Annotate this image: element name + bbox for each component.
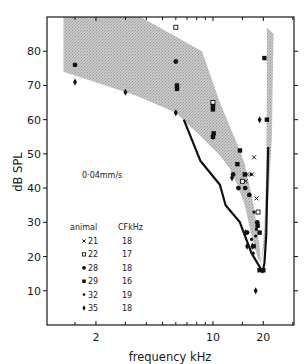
filled-square-marker (243, 172, 247, 176)
filled-square-marker (265, 117, 269, 121)
filled-square-marker (238, 148, 242, 152)
legend-cf-value: 16 (122, 277, 132, 286)
x-tick-label: 10 (206, 331, 220, 344)
x-tick-label: 20 (256, 331, 270, 344)
filled-square-marker (211, 104, 215, 108)
legend-entry: 2818 (82, 264, 132, 273)
legend-entry: 2916 (82, 277, 132, 286)
y-tick-label: 50 (27, 148, 41, 161)
y-tick-label: 10 (27, 285, 41, 298)
x-tick-label: 2 (92, 331, 99, 344)
filled-circle-marker (82, 266, 86, 270)
filled-circle-marker (236, 186, 241, 191)
legend-animal-id: 28 (88, 264, 98, 273)
legend-animal-id: 35 (88, 304, 98, 313)
open-square-marker (174, 25, 178, 29)
filled-circle-marker (247, 193, 252, 198)
cross-marker (82, 239, 85, 242)
legend-cf-value: 18 (122, 237, 132, 246)
diamond-marker (73, 79, 77, 86)
filled-square-marker (255, 224, 259, 228)
legend-animal-id: 32 (88, 291, 98, 300)
y-tick-label: 30 (27, 216, 41, 229)
y-tick-label: 70 (27, 79, 41, 92)
y-tick-label: 40 (27, 182, 41, 195)
y-tick-label: 60 (27, 114, 41, 127)
tuning-curve-chart: 21020 1020304050607080 frequency kHz dB … (0, 0, 308, 364)
small-dot-marker (252, 252, 255, 255)
x-axis-title: frequency kHz (129, 350, 212, 364)
filled-square-marker (175, 87, 179, 91)
legend-cf-value: 17 (122, 250, 132, 259)
filled-circle-marker (173, 59, 178, 64)
legend-entry: 3518 (82, 304, 132, 313)
small-dot-marker (255, 228, 258, 231)
small-dot-marker (249, 173, 252, 176)
cross-marker (252, 155, 256, 159)
diamond-marker (82, 305, 85, 311)
legend-cf-value: 18 (122, 264, 132, 273)
legend-animal-id: 22 (88, 250, 98, 259)
legend-header-cf: CFkHz (118, 223, 143, 232)
diamond-marker (254, 287, 258, 294)
y-axis-title: dB SPL (11, 152, 25, 192)
small-dot-marker (254, 234, 257, 237)
diamond-marker (258, 116, 262, 123)
legend-entry: 3219 (83, 291, 132, 300)
filled-square-marker (257, 230, 261, 234)
legend: animalCFkHz211822172818291632193518 (70, 223, 143, 313)
small-dot-marker (252, 210, 255, 213)
velocity-annotation: 0·04mm/s (82, 171, 122, 180)
small-dot-marker (83, 293, 86, 296)
legend-cf-value: 19 (122, 291, 132, 300)
legend-entry: 2118 (82, 237, 132, 246)
legend-animal-id: 21 (88, 237, 98, 246)
filled-circle-marker (243, 186, 248, 191)
y-tick-label: 20 (27, 251, 41, 264)
cross-marker (254, 196, 258, 200)
filled-square-marker (235, 162, 239, 166)
open-square-marker (240, 179, 244, 183)
series-animal-35 (73, 79, 262, 295)
filled-circle-marker (73, 63, 78, 68)
filled-square-marker (261, 268, 265, 272)
filled-square-marker (262, 56, 266, 60)
y-tick-label: 80 (27, 45, 41, 58)
legend-cf-value: 18 (122, 304, 132, 313)
legend-animal-id: 29 (88, 277, 98, 286)
filled-square-marker (82, 279, 86, 283)
open-square-marker (82, 253, 85, 256)
open-square-marker (256, 210, 260, 214)
legend-entry: 2217 (82, 250, 132, 259)
small-dot-marker (250, 238, 253, 241)
legend-header-animal: animal (70, 223, 97, 232)
